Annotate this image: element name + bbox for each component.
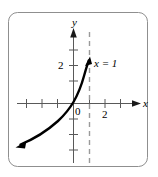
x-tick-label-2: 2: [102, 108, 108, 120]
graph-canvas: y x 0 2 2 x = 1: [0, 0, 158, 177]
origin-label: 0: [75, 105, 81, 117]
asymptote-label: x = 1: [93, 57, 117, 69]
y-axis-label: y: [71, 16, 77, 28]
y-tick-label-2: 2: [58, 59, 64, 71]
x-axis-label: x: [142, 97, 148, 109]
graph-figure: y x 0 2 2 x = 1: [0, 0, 158, 177]
figure-border: [9, 13, 148, 167]
